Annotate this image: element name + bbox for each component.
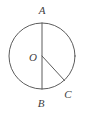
point-label-a: A (38, 4, 46, 16)
point-label-c: C (64, 88, 72, 100)
point-label-o: O (29, 51, 37, 63)
geometry-canvas: A O B C (0, 0, 85, 115)
geometry-figure: A O B C (0, 0, 85, 115)
point-label-b: B (38, 97, 45, 109)
